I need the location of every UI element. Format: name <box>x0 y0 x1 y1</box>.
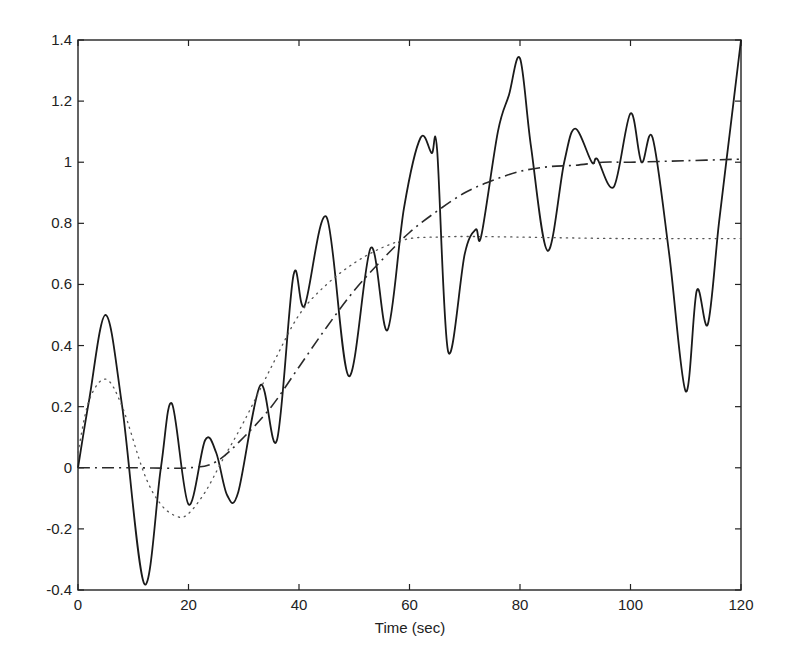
x-tick-label: 80 <box>512 596 529 613</box>
y-tick-label: -0.2 <box>46 520 72 537</box>
x-axis-label: Time (sec) <box>375 619 445 636</box>
y-tick-label: -0.4 <box>46 581 72 598</box>
y-tick-label: 0 <box>64 459 72 476</box>
y-tick-label: 1 <box>64 153 72 170</box>
series-dotted-line <box>78 236 741 517</box>
y-tick-label: 1.4 <box>51 31 72 48</box>
x-tick-label: 20 <box>180 596 197 613</box>
y-tick-label: 0.2 <box>51 398 72 415</box>
x-tick-label: 60 <box>401 596 418 613</box>
y-tick-label: 1.2 <box>51 92 72 109</box>
plot-frame <box>78 40 741 590</box>
axis-ticks: 020406080100120-0.4-0.200.20.40.60.811.2… <box>46 31 753 613</box>
chart-svg: 020406080100120-0.4-0.200.20.40.60.811.2… <box>0 0 791 664</box>
x-tick-label: 100 <box>618 596 643 613</box>
y-tick-label: 0.8 <box>51 214 72 231</box>
x-tick-label: 0 <box>74 596 82 613</box>
y-tick-label: 0.4 <box>51 337 72 354</box>
x-tick-label: 120 <box>728 596 753 613</box>
series-dash-dot-line <box>78 159 741 468</box>
y-tick-label: 0.6 <box>51 275 72 292</box>
series-solid-line <box>78 40 741 585</box>
data-series <box>78 40 741 585</box>
x-tick-label: 40 <box>291 596 308 613</box>
